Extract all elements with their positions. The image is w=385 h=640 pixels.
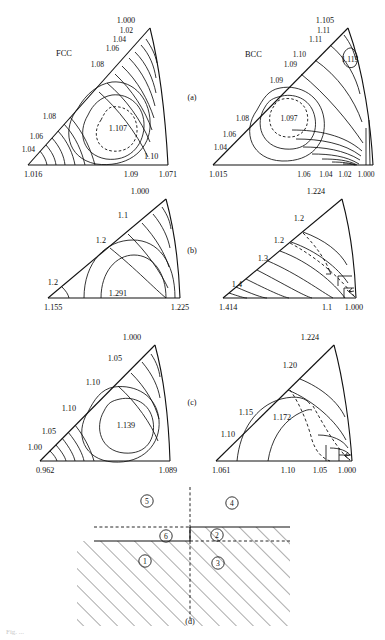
b-right-label-bottom-1: 1.1 [322,303,332,312]
c-right-label-bottom-2: 1.05 [313,466,327,475]
b-left-label-right: 1.225 [171,303,189,312]
c-left-label-hyp-4: 1.05 [42,427,56,436]
label-hyp-4: 1.08 [91,60,104,69]
bcc-label-hyp-5: 1.09 [270,76,283,85]
bcc-label-hyp-3: 1.10 [293,50,306,59]
bcc-label-max: 1.097 [280,114,297,123]
region-label-1: 1 [143,557,147,566]
b-left-label-max: 1.291 [109,289,127,298]
bcc-label-left-corner: 1.015 [209,170,227,179]
region-label-4: 4 [230,499,234,508]
hatch-region-right [190,527,290,626]
label-lower-1: 1.08 [43,112,56,121]
region-label-6: 6 [164,532,168,541]
label-left-corner: 1.016 [24,170,42,179]
panel-b-right: 1.224 1.2 1.2 1.3 1.4 1.414 1.1 1.000 [219,187,363,312]
bcc-title: BCC [245,50,262,59]
c-right-label-hyp-3: 1.10 [221,430,235,439]
label-inner-110: 1.10 [144,152,158,161]
c-left-label-max: 1.139 [117,421,135,430]
figure-caption: Fig. ... [6,628,24,636]
bcc-label-secondary-max: 1.113 [342,55,359,64]
c-right-label-max: 1.172 [273,413,291,422]
b-left-label-top: 1.000 [131,187,149,196]
label-top-corner: 1.000 [117,16,135,25]
label-lower-3: 1.04 [22,145,35,154]
label-right-corner: 1.071 [159,170,177,179]
bcc-label-bottom-1: 1.06 [297,170,310,179]
panel-c-left: 1.000 1.05 1.10 1.10 1.05 1.00 0.962 1.0… [28,333,178,475]
bcc-label-hyp-6: 1.08 [236,114,249,123]
label-hyp-1: 1.02 [120,26,133,35]
b-left-label-hyp-2: 1.2 [96,236,106,245]
bcc-label-bottom-3: 1.02 [338,170,351,179]
bcc-label-hyp-1: 1.11 [317,26,330,35]
c-right-label-hyp-1: 1.20 [283,361,297,370]
c-left-label-hyp-1: 1.05 [108,354,122,363]
bcc-label-hyp-4: 1.09 [284,60,297,69]
b-right-label-bottom-2: 1.000 [345,303,363,312]
b-right-label-hyp-4: 1.4 [232,280,242,289]
panel-id-c: (c) [187,398,196,407]
c-left-label-right: 1.089 [159,466,177,475]
c-left-label-left: 0.962 [36,466,54,475]
figure-svg: FCC 1.000 1.02 1.04 1.06 1.08 1.08 1.06 … [0,0,385,640]
region-label-5: 5 [145,497,149,506]
c-left-label-hyp-5: 1.00 [28,443,42,452]
panel-d: 5 4 6 2 1 3 (d) [77,487,290,626]
panel-id-a: (a) [187,93,196,102]
label-hyp-3: 1.06 [106,44,119,53]
figure-root: FCC 1.000 1.02 1.04 1.06 1.08 1.08 1.06 … [0,0,385,640]
panel-c-right: 1.224 1.20 1.15 1.10 1.061 1.10 1.05 1.0… [212,333,356,475]
label-bottom-1: 1.09 [124,170,138,179]
c-left-label-hyp-2: 1.10 [86,378,100,387]
label-lower-2: 1.06 [30,132,43,141]
b-right-label-hyp-1: 1.2 [294,214,304,223]
label-max: 1.107 [109,124,127,133]
panel-a-bcc: BCC 1.105 1.11 1.11 1.10 1.09 1.09 1.08 … [209,16,375,179]
c-right-label-top: 1.224 [301,333,319,342]
b-right-label-top: 1.224 [307,187,325,196]
region-marker-6: 6 [160,530,172,542]
region-label-3: 3 [216,559,220,568]
c-right-label-hyp-2: 1.15 [239,408,253,417]
b-left-label-hyp-1: 1.1 [118,211,128,220]
region-marker-5: 5 [141,495,153,507]
region-marker-4: 4 [226,497,238,509]
bcc-label-hyp-8: 1.04 [214,143,227,152]
panel-id-b: (b) [187,246,197,255]
bcc-label-hyp-7: 1.06 [223,130,236,139]
c-right-label-bottom-3: 1.000 [338,466,356,475]
bcc-label-top-corner: 1.105 [316,16,334,25]
panel-id-d: (d) [185,617,195,626]
bcc-label-bottom-2: 1.04 [319,170,332,179]
c-left-label-top: 1.000 [123,333,141,342]
fcc-title: FCC [56,49,72,58]
region-label-2: 2 [215,531,219,540]
b-right-label-hyp-2: 1.2 [274,236,284,245]
label-hyp-2: 1.04 [113,35,126,44]
hatch-region-left [77,541,190,626]
bcc-label-hyp-2: 1.11 [309,35,322,44]
b-right-label-left: 1.414 [219,303,237,312]
bcc-label-bottom-4: 1.000 [357,170,374,179]
panel-a-fcc: FCC 1.000 1.02 1.04 1.06 1.08 1.08 1.06 … [22,16,178,179]
c-right-label-bottom-1: 1.10 [281,466,295,475]
b-left-label-left: 1.155 [44,303,62,312]
c-right-label-left: 1.061 [212,466,230,475]
b-right-label-hyp-3: 1.3 [258,254,268,263]
panel-b-left: 1.000 1.1 1.2 1.2 1.155 1.225 1.291 [44,187,189,312]
c-left-label-hyp-3: 1.10 [62,404,76,413]
b-left-label-lower: 1.2 [48,278,58,287]
